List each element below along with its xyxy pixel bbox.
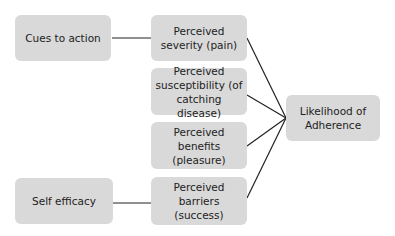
node-self-efficacy: Self efficacy	[15, 178, 113, 224]
node-likelihood-of-adherence: Likelihood of Adherence	[286, 95, 380, 141]
node-perceived-benefits: Perceived benefits (pleasure)	[151, 122, 247, 169]
node-perceived-severity: Perceived severity (pain)	[151, 15, 247, 61]
node-perceived-barriers: Perceived barriers (success)	[151, 177, 247, 225]
node-cues-to-action: Cues to action	[15, 15, 111, 61]
node-perceived-susceptibility: Perceived susceptibility (of catching di…	[151, 68, 247, 115]
